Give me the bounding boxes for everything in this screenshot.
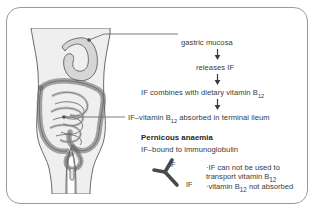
subscript-12: 12 (240, 186, 247, 193)
down-arrow-icon (214, 99, 221, 110)
pernicious-anaemia-heading: Pernicous anaemia (141, 133, 213, 142)
subscript-12: 12 (258, 93, 264, 99)
flow-step-absorbed: IF–vitamin B12 absorbed in terminal ileu… (128, 113, 270, 122)
flow-step-gastric-mucosa: gastric mucosa (181, 38, 233, 47)
bullet-text: transport vitamin B (206, 172, 269, 181)
bullet-text-tail: not absorbed (247, 182, 293, 191)
flow-step-releases-if: releases IF (196, 63, 234, 72)
flow-step-absorbed-text: IF–vitamin B (128, 113, 171, 122)
down-arrow-icon (214, 49, 221, 60)
antibody-label-bottom: IF (186, 180, 192, 189)
antibody-label-top: IF (169, 160, 175, 169)
bullet-text: ·vitamin B (206, 182, 240, 191)
flow-step-absorbed-text-tail: absorbed in terminal ileum (177, 113, 270, 122)
flow-step-combines-text: IF combines with dietary vitamin B (141, 88, 258, 97)
bullet-item: ·vitamin B12 not absorbed (206, 182, 293, 194)
figure-root: gastric mucosa releases IF IF combines w… (0, 0, 321, 217)
pernicious-anaemia-subtitle: IF–bound to immunoglobulin (141, 145, 238, 154)
flow-step-combines: IF combines with dietary vitamin B12 (141, 88, 264, 97)
down-arrow-icon (214, 74, 221, 85)
anatomy-illustration (19, 28, 122, 194)
